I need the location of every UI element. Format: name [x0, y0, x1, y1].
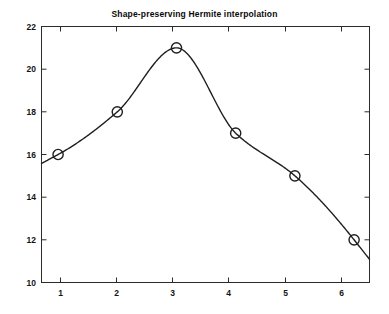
x-tick-labels: 1 2 3 4 5 6	[58, 288, 344, 298]
x-tick-label: 2	[114, 288, 119, 298]
x-axis-ticks	[61, 27, 342, 283]
y-tick-label: 14	[27, 192, 37, 202]
data-curve	[42, 48, 370, 259]
data-markers	[53, 43, 359, 245]
y-tick-labels: 10 12 14 16 18 20 22	[27, 22, 37, 288]
x-tick-label: 1	[58, 288, 63, 298]
y-tick-label: 20	[27, 64, 37, 74]
y-axis-ticks	[42, 27, 370, 283]
x-tick-label: 4	[226, 288, 231, 298]
y-tick-label: 10	[27, 278, 37, 288]
y-tick-label: 16	[27, 150, 37, 160]
figure-canvas: Shape-preserving Hermite interpolation	[0, 0, 389, 314]
y-tick-label: 12	[27, 235, 37, 245]
axes-box	[42, 27, 370, 283]
x-tick-label: 6	[339, 288, 344, 298]
y-tick-label: 22	[27, 22, 37, 32]
x-tick-label: 5	[283, 288, 288, 298]
plot-area: 10 12 14 16 18 20 22 1 2 3 4 5 6	[0, 0, 389, 314]
y-tick-label: 18	[27, 107, 37, 117]
x-tick-label: 3	[170, 288, 175, 298]
